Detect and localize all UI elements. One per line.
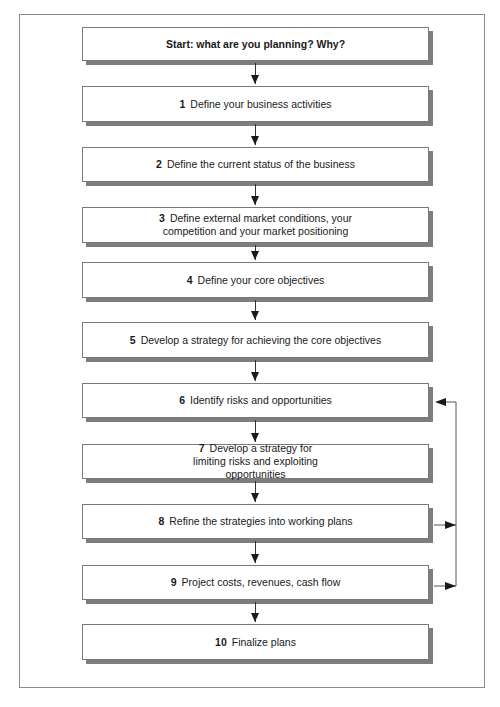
arrow-right-icon [445,582,456,590]
arrow-left-icon [435,398,446,406]
feedback-loop-connector [0,0,500,707]
arrow-right-icon [445,521,456,529]
